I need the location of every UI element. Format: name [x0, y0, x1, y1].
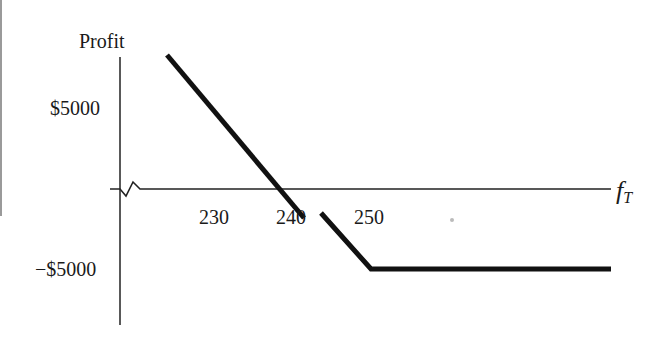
y-axis-label: Profit: [79, 31, 125, 51]
x-tick-250: 250: [354, 207, 384, 227]
x-tick-240: 240: [276, 207, 306, 227]
x-axis: [110, 182, 611, 196]
payoff-line-upper: [167, 55, 304, 218]
x-tick-230: 230: [199, 207, 229, 227]
x-axis-label: fT: [616, 178, 632, 206]
scan-speck: [450, 218, 454, 222]
x-axis-label-sub: T: [623, 189, 632, 206]
payoff-chart: Profit $5000 −$5000 230 240 250 fT: [0, 0, 655, 346]
y-tick-positive: $5000: [50, 98, 100, 118]
y-tick-negative: −$5000: [35, 259, 96, 279]
